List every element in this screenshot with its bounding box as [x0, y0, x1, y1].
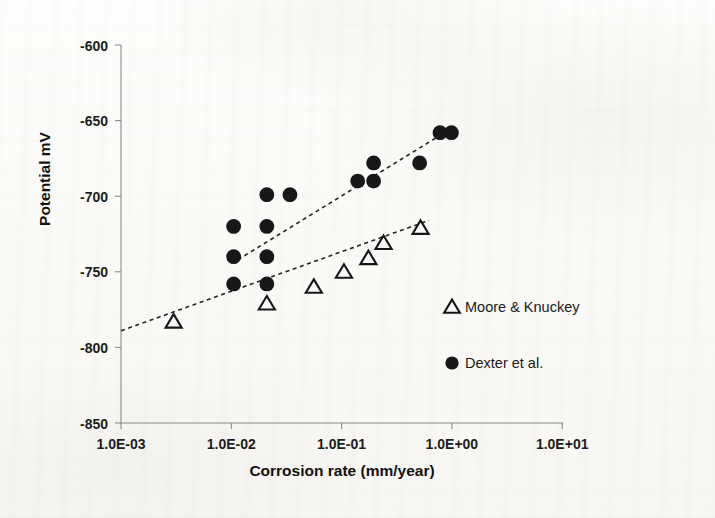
axes-group: -600-650-700-750-800-8501.0E-031.0E-021.… — [80, 38, 589, 453]
chart-legend: Moore & KnuckeyDexter et al. — [444, 299, 580, 371]
y-axis-tick-label: -800 — [80, 340, 108, 356]
data-point-marker — [259, 219, 274, 234]
data-point-marker — [283, 187, 298, 202]
data-point-marker — [226, 249, 241, 264]
y-axis-tick-label: -700 — [80, 189, 108, 205]
x-axis-tick-label: 1.0E-03 — [96, 436, 145, 452]
data-point-marker — [360, 251, 376, 264]
legend-entry: Moore & Knuckey — [444, 299, 580, 315]
data-point-marker — [412, 156, 427, 171]
plot-canvas: -600-650-700-750-800-8501.0E-031.0E-021.… — [0, 0, 715, 518]
corrosion-potential-scatter-chart: -600-650-700-750-800-8501.0E-031.0E-021.… — [0, 0, 715, 518]
data-point-marker — [336, 264, 352, 277]
y-axis-tick-label: -750 — [80, 264, 108, 280]
x-axis-title: Corrosion rate (mm/year) — [249, 462, 434, 479]
data-point-marker — [259, 296, 275, 309]
data-point-marker — [413, 220, 429, 233]
data-point-marker — [166, 314, 182, 327]
legend-marker-open-triangle-icon — [444, 300, 460, 313]
y-axis-tick-label: -600 — [80, 38, 108, 54]
data-point-marker — [350, 174, 365, 189]
y-axis-tick-label: -850 — [80, 416, 108, 432]
x-axis-tick-label: 1.0E-02 — [207, 436, 256, 452]
x-axis-tick-label: 1.0E+00 — [426, 436, 479, 452]
data-point-marker — [226, 219, 241, 234]
data-point-marker — [366, 174, 381, 189]
legend-entry-label: Dexter et al. — [465, 355, 543, 371]
x-axis-tick-label: 1.0E-01 — [317, 436, 366, 452]
data-series-group — [121, 125, 459, 330]
y-axis-tick-label: -650 — [80, 113, 108, 129]
y-axis-title: Potential mV — [36, 131, 53, 226]
x-axis-tick-label: 1.0E+01 — [536, 436, 589, 452]
series-moore-knuckey — [121, 220, 429, 330]
data-point-marker — [259, 187, 274, 202]
data-point-marker — [259, 276, 274, 291]
data-point-marker — [226, 276, 241, 291]
data-point-marker — [259, 249, 274, 264]
legend-entry: Dexter et al. — [445, 355, 543, 371]
data-point-marker — [444, 125, 459, 140]
data-point-marker — [306, 279, 322, 292]
legend-entry-label: Moore & Knuckey — [465, 299, 580, 315]
data-point-marker — [375, 236, 391, 249]
data-point-marker — [366, 156, 381, 171]
legend-marker-filled-circle-icon — [445, 356, 458, 369]
